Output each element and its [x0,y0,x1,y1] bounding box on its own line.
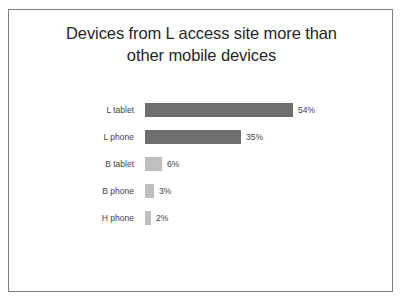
category-label: L tablet [9,102,134,118]
bar [145,157,162,171]
category-label: B tablet [9,156,134,172]
value-label: 3% [159,183,171,199]
value-label: 6% [167,156,179,172]
bar-row: B phone 3% [9,183,392,199]
bar [145,130,241,144]
bar-row: H phone 2% [9,210,392,226]
category-label: H phone [9,210,134,226]
bar-track [145,157,162,171]
bar [145,103,293,117]
chart-title-line-2: other mobile devices [23,44,380,66]
bar-row: L phone 35% [9,129,392,145]
bar [145,211,151,225]
plot-area: L tablet 54% L phone 35% B tablet 6% B p… [9,102,392,252]
bar [145,184,154,198]
bar-row: B tablet 6% [9,156,392,172]
bar-track [145,103,293,117]
chart-title: Devices from L access site more than oth… [23,22,380,66]
value-label: 2% [156,210,168,226]
category-label: B phone [9,183,134,199]
bar-row: L tablet 54% [9,102,392,118]
value-label: 35% [246,129,263,145]
bar-track [145,130,241,144]
chart-frame: Devices from L access site more than oth… [8,9,393,292]
bar-track [145,211,151,225]
chart-title-line-1: Devices from L access site more than [23,22,380,44]
category-label: L phone [9,129,134,145]
bar-track [145,184,154,198]
value-label: 54% [298,102,315,118]
